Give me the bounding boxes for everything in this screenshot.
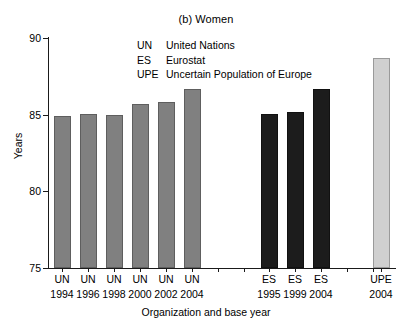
y-axis-tick-label: 90 [15,33,41,44]
x-label-year: 2004 [361,287,401,302]
bar-es-2004 [313,89,330,268]
y-axis-tick [43,115,48,116]
bars-container [48,38,396,268]
x-label-year: 2004 [172,287,212,302]
x-label-organization: UPE [361,272,401,287]
y-axis-tick [43,191,48,192]
x-axis-tick-label: ES2004 [301,272,341,302]
bar-un-1996 [80,114,97,268]
bar-es-1995 [261,114,278,268]
x-axis-title: Organization and base year [0,306,412,318]
bar-chart-figure: (b) Women UNUnited NationsESEurostatUPEU… [0,0,412,331]
x-axis-tick-labels: UN1994UN1996UN1998UN2000UN2002UN2004ES19… [0,272,412,306]
y-axis-title: Years [12,116,24,176]
y-axis-tick [43,268,48,269]
y-axis-tick-label: 80 [15,186,41,197]
x-label-organization: ES [301,272,341,287]
bar-un-1998 [106,115,123,268]
y-axis-tick [43,38,48,39]
bar-un-2002 [158,102,175,268]
chart-title: (b) Women [0,13,412,25]
bar-un-1994 [54,116,71,268]
x-axis-tick-label: UN2004 [172,272,212,302]
x-label-year: 2004 [301,287,341,302]
bar-un-2004 [184,89,201,268]
bar-es-1999 [287,112,304,268]
bar-upe-2004 [373,58,390,268]
x-label-organization: UN [172,272,212,287]
x-axis-tick-label: UPE2004 [361,272,401,302]
bar-un-2000 [132,104,149,268]
